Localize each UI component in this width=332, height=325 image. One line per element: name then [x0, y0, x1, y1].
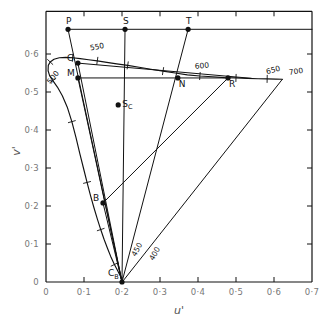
data-point-C-B[interactable] [119, 279, 124, 284]
point-label-P: P [66, 16, 72, 26]
x-tick-label: 0·7 [305, 287, 319, 297]
y-tick-label: 0·6 [25, 49, 39, 59]
series-ray-B-R [103, 78, 228, 203]
point-label-R: R [229, 79, 235, 89]
series-horizontal-G-locus [78, 63, 251, 78]
chromaticity-plot: 00·10·20·30·40·50·60·7u'00·10·20·30·40·5… [0, 0, 332, 325]
y-tick-label: 0·2 [25, 201, 39, 211]
x-tick-label: 0·1 [77, 287, 91, 297]
locus-wavelength-tick [162, 67, 163, 75]
y-tick-label: 0 [33, 277, 39, 287]
locus-wavelength-tick [127, 61, 128, 69]
locus-wavelength-tick [200, 72, 201, 80]
locus-wavelength-tick [97, 57, 98, 65]
point-label-T: T [185, 16, 192, 26]
x-tick-label: 0·3 [153, 287, 167, 297]
point-label-S: S [123, 16, 129, 26]
point-label-M: M [67, 68, 75, 78]
point-label-B: B [93, 193, 99, 203]
series-ray-T-CB [122, 29, 188, 282]
y-tick-label: 0·4 [25, 125, 39, 135]
x-tick-label: 0·2 [115, 287, 129, 297]
data-point-S-C[interactable] [116, 102, 121, 107]
x-tick-label: 0·5 [229, 287, 243, 297]
series-ray-M-CB [78, 78, 122, 282]
y-tick-label: 0·5 [25, 87, 39, 97]
series-purple-line [122, 79, 282, 282]
wavelength-label-650: 650 [265, 64, 281, 76]
data-point-B[interactable] [100, 200, 105, 205]
y-tick-label: 0·3 [25, 163, 39, 173]
wavelength-label-700: 700 [288, 66, 304, 77]
x-axis-label: u' [174, 304, 184, 317]
data-point-S[interactable] [122, 27, 127, 32]
data-point-P[interactable] [65, 27, 70, 32]
y-tick-label: 0·1 [25, 239, 39, 249]
x-tick-label: 0·6 [267, 287, 281, 297]
x-tick-label: 0 [43, 287, 49, 297]
point-label-N: N [179, 79, 186, 89]
wavelength-label-600: 600 [194, 61, 209, 71]
data-point-M[interactable] [75, 75, 80, 80]
wavelength-label-550: 550 [89, 41, 105, 53]
data-point-T[interactable] [186, 27, 191, 32]
chromaticity-figure: 00·10·20·30·40·50·60·7u'00·10·20·30·40·5… [0, 0, 332, 325]
y-axis-label: v' [10, 146, 23, 156]
wavelength-label-500: 500 [45, 69, 61, 86]
point-label-G: G [67, 53, 74, 63]
data-point-G[interactable] [75, 61, 80, 66]
x-tick-label: 0·4 [191, 287, 205, 297]
